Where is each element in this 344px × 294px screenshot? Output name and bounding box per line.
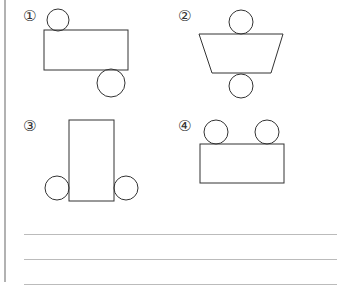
circle-icon	[114, 176, 138, 200]
figure-2-label: ②	[178, 7, 191, 25]
circle-icon	[255, 120, 279, 144]
rectangle-shape	[44, 30, 128, 70]
circle-icon	[229, 10, 253, 34]
trapezoid-shape	[199, 34, 283, 73]
rectangle-shape	[69, 120, 114, 201]
figure-2: ②	[178, 7, 283, 98]
figure-1-label: ①	[23, 7, 36, 25]
answer-lines	[24, 235, 337, 285]
rectangle-shape	[200, 144, 284, 183]
figure-3: ③	[23, 117, 138, 201]
circle-icon	[204, 120, 228, 144]
figure-4: ④	[178, 117, 284, 183]
figure-4-label: ④	[178, 117, 191, 135]
circle-icon	[45, 176, 69, 200]
circle-icon	[47, 9, 69, 31]
circle-icon	[229, 74, 253, 98]
figure-3-label: ③	[23, 117, 36, 135]
figure-1: ①	[23, 7, 128, 97]
worksheet-canvas: ① ② ③ ④	[0, 0, 344, 294]
circle-icon	[97, 69, 125, 97]
